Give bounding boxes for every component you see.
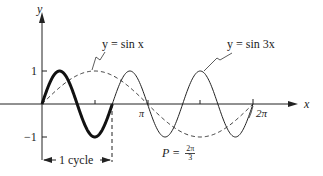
period-prefix: P =: [162, 146, 183, 160]
two-pi-leader: [249, 106, 253, 118]
tick-label-pi: π: [139, 109, 144, 119]
sin-x-annotation: y = sin x: [102, 38, 144, 50]
x-axis-arrow-icon: [288, 101, 298, 107]
period-fraction: 2π3: [185, 145, 195, 163]
tick-label-one: 1: [31, 65, 37, 77]
sin-x-leader: [92, 52, 105, 70]
period-denominator: 3: [188, 154, 192, 162]
x-axis-label: x: [304, 98, 309, 110]
cycle-right-arrow-icon: [102, 157, 111, 163]
axes: [0, 12, 298, 160]
tick-label-neg-one: −1: [24, 131, 37, 143]
sin-3x-annotation: y = sin 3x: [227, 38, 275, 50]
y-axis-label: y: [37, 3, 42, 15]
cycle-left-arrow-icon: [43, 157, 52, 163]
sin-3x-leader: [204, 53, 232, 71]
leader-lines: [92, 52, 253, 118]
cycle-label: 1 cycle: [59, 154, 93, 166]
period-label: P = 2π3: [162, 145, 195, 163]
tick-label-two-pi: 2π: [256, 108, 267, 119]
